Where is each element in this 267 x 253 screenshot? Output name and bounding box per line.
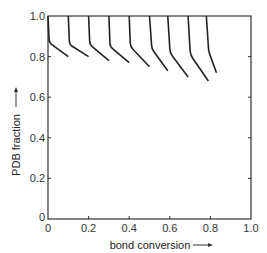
x-tick-label: 0.4 <box>122 222 137 234</box>
y-tick-label: 0.4 <box>30 132 45 144</box>
series-curve <box>68 16 88 57</box>
series-curve <box>129 16 149 67</box>
series-curve <box>109 16 129 63</box>
x-axis-arrow-icon <box>193 243 213 247</box>
y-tick-label: 0.6 <box>30 91 45 103</box>
x-tick-label: 0.8 <box>203 222 218 234</box>
axis-ticks: 00.20.40.60.81.000.20.40.60.81.0 <box>30 10 259 234</box>
y-tick-label: 1.0 <box>30 10 45 22</box>
y-tick-label: 0.8 <box>30 51 45 63</box>
series-curve <box>48 16 68 57</box>
series-curve <box>206 16 216 73</box>
y-tick-label: 0.2 <box>30 172 45 184</box>
series-curve <box>168 16 188 77</box>
plot-frame <box>48 16 251 219</box>
x-axis-label: bond conversion <box>110 239 191 251</box>
series-curve <box>188 16 208 81</box>
series-curve <box>89 16 109 61</box>
x-tick-label: 1.0 <box>243 222 258 234</box>
chart: 00.20.40.60.81.000.20.40.60.81.0 bond co… <box>0 0 267 253</box>
y-tick-label: 0 <box>39 211 45 223</box>
y-axis-label: PDB fraction <box>10 114 22 176</box>
x-tick-label: 0 <box>45 222 51 234</box>
series-curve <box>150 16 168 71</box>
x-tick-label: 0.2 <box>81 222 96 234</box>
data-series <box>48 16 216 81</box>
x-tick-label: 0.6 <box>162 222 177 234</box>
y-axis-arrow-icon <box>14 87 18 107</box>
